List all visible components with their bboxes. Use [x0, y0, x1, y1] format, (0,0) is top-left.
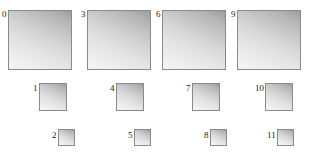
square-label-3: 3 — [81, 10, 86, 19]
gradient-square-grid: 01234567891011 — [0, 0, 311, 154]
gradient-swatch-4 — [116, 83, 144, 111]
square-group-8: 8 — [204, 129, 227, 146]
gradient-swatch-0 — [8, 10, 72, 70]
square-label-10: 10 — [255, 84, 264, 93]
square-group-4: 4 — [110, 83, 144, 111]
square-label-4: 4 — [110, 84, 115, 93]
gradient-swatch-8 — [210, 129, 227, 146]
square-group-6: 6 — [156, 10, 226, 70]
gradient-swatch-3 — [87, 10, 151, 70]
gradient-swatch-5 — [134, 129, 151, 146]
gradient-swatch-9 — [237, 10, 301, 70]
square-group-1: 1 — [33, 83, 67, 111]
square-label-11: 11 — [267, 131, 276, 140]
gradient-swatch-10 — [265, 83, 293, 111]
gradient-swatch-11 — [277, 129, 294, 146]
gradient-swatch-7 — [192, 83, 220, 111]
square-group-3: 3 — [81, 10, 151, 70]
square-label-1: 1 — [33, 84, 38, 93]
square-label-8: 8 — [204, 131, 209, 140]
square-group-0: 0 — [2, 10, 72, 70]
square-group-2: 2 — [52, 129, 75, 146]
square-group-7: 7 — [186, 83, 220, 111]
square-group-10: 10 — [255, 83, 293, 111]
gradient-swatch-6 — [162, 10, 226, 70]
square-label-2: 2 — [52, 131, 57, 140]
square-group-9: 9 — [231, 10, 301, 70]
square-group-5: 5 — [128, 129, 151, 146]
square-label-5: 5 — [128, 131, 133, 140]
square-group-11: 11 — [267, 129, 294, 146]
gradient-swatch-2 — [58, 129, 75, 146]
square-label-9: 9 — [231, 10, 236, 19]
gradient-swatch-1 — [39, 83, 67, 111]
square-label-0: 0 — [2, 10, 7, 19]
square-label-7: 7 — [186, 84, 191, 93]
square-label-6: 6 — [156, 10, 161, 19]
